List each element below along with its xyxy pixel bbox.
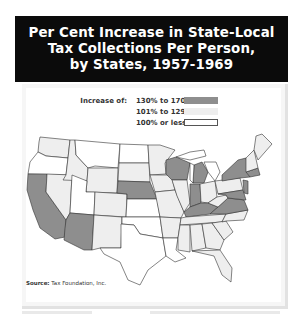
state-ks xyxy=(126,199,160,217)
source-note: Source: Tax Foundation, Inc. xyxy=(26,280,106,286)
state-nd xyxy=(119,144,149,163)
state-co xyxy=(94,192,127,217)
bleed-through-text xyxy=(22,311,92,314)
source-prefix: Source: xyxy=(26,280,50,286)
state-nm xyxy=(92,215,122,250)
state-me xyxy=(254,134,272,160)
us-map xyxy=(0,0,303,320)
state-sd xyxy=(118,163,150,182)
lake-superior xyxy=(176,150,206,160)
state-ar xyxy=(160,217,181,238)
bleed-through-text xyxy=(150,311,280,314)
source-text: Tax Foundation, Inc. xyxy=(51,280,106,286)
state-az xyxy=(64,213,94,250)
state-nj xyxy=(243,180,248,194)
state-fl xyxy=(192,250,232,282)
state-wy xyxy=(86,168,118,193)
state-ms xyxy=(178,225,190,252)
state-wi xyxy=(166,157,190,180)
lake-michigan xyxy=(190,163,194,183)
